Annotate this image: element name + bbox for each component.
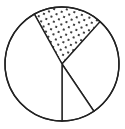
pie-slices bbox=[5, 7, 119, 121]
pie-chart bbox=[0, 0, 125, 129]
